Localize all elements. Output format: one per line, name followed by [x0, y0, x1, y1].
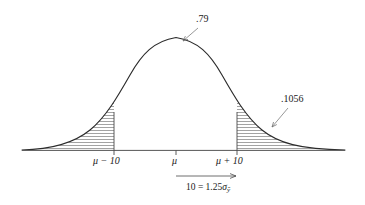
distribution-plot	[0, 0, 365, 205]
formula-equals: =	[196, 182, 206, 192]
peak-density-label: .79	[196, 14, 209, 24]
span-formula-label: 10 = 1.25σȳ	[186, 183, 230, 194]
tail-area-label: .1056	[281, 94, 304, 104]
peak-leader-line	[183, 28, 198, 41]
tail-leader-line	[272, 108, 288, 127]
axis-tick-label-center: μ	[172, 156, 177, 166]
formula-value: 10	[186, 182, 196, 192]
formula-subscript: ȳ	[227, 186, 230, 194]
normal-distribution-figure: .79 .1056 μ − 10 μ μ + 10 10 = 1.25σȳ	[0, 0, 365, 205]
axis-tick-label-left: μ − 10	[93, 156, 120, 166]
formula-coefficient: 1.25	[206, 182, 223, 192]
axis-tick-label-right: μ + 10	[216, 156, 243, 166]
